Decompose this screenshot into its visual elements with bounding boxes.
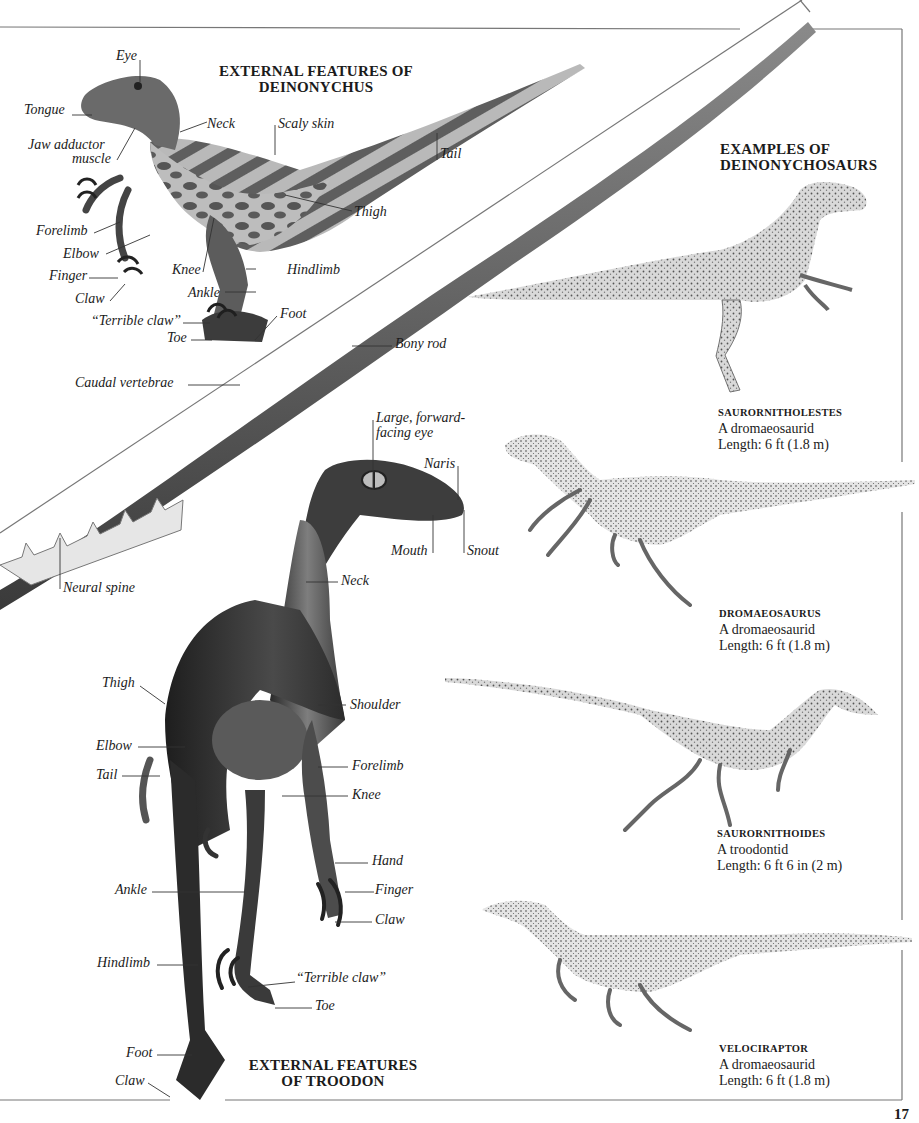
deinonychus-title: EXTERNAL FEATURES OF DEINONYCHUS [206,63,426,95]
deinonychus-title-line1: EXTERNAL FEATURES OF [219,63,413,79]
label-toe: Toe [167,330,187,345]
deinonychus-title-line2: DEINONYCHUS [259,79,374,95]
species-name: SAURORNITHOIDES [717,826,842,842]
species-family: A dromaeosaurid [718,421,814,436]
label-thigh-troodon: Thigh [102,675,135,690]
label-knee: Knee [172,262,201,277]
label-jaw-adductor-2: muscle [72,151,111,166]
label-tail: Tail [440,146,461,161]
page-number: 17 [894,1106,909,1123]
label-bony-rod: Bony rod [395,336,446,351]
species-family: A dromaeosaurid [719,1057,815,1072]
label-ankle-troodon: Ankle [115,882,147,897]
label-forelimb-troodon: Forelimb [352,758,404,773]
label-naris: Naris [424,456,455,471]
label-neck: Neck [207,116,235,131]
label-neck-troodon: Neck [341,573,369,588]
species-name: VELOCIRAPTOR [719,1041,830,1057]
saurornithoides-illustration [445,678,878,830]
label-knee-troodon: Knee [352,787,381,802]
label-shoulder: Shoulder [350,697,401,712]
label-neural-spine: Neural spine [63,580,135,595]
label-finger: Finger [49,268,87,283]
label-tongue: Tongue [24,102,65,117]
label-ankle: Ankle [188,285,220,300]
label-eye-1: Large, forward- [376,410,465,425]
label-scaly-skin: Scaly skin [278,116,334,131]
saurornitholestes-illustration [468,182,866,392]
label-caudal-vertebrae: Caudal vertebrae [75,375,173,390]
label-snout: Snout [467,543,499,558]
label-eye-2: facing eye [376,425,433,440]
label-elbow: Elbow [63,246,99,261]
label-finger-troodon: Finger [375,882,413,897]
velociraptor-illustration [482,901,912,1030]
caption-saurornitholestes: SAURORNITHOLESTES A dromaeosaurid Length… [718,405,842,453]
caption-saurornithoides: SAURORNITHOIDES A troodontid Length: 6 f… [717,826,842,874]
label-terrible-claw: “Terrible claw” [91,313,181,328]
label-claw: Claw [75,291,105,306]
species-family: A troodontid [717,842,788,857]
species-length: Length: 6 ft (1.8 m) [719,638,830,653]
species-length: Length: 6 ft (1.8 m) [719,1073,830,1088]
label-hindlimb-troodon: Hindlimb [97,955,150,970]
label-jaw-adductor-1: Jaw adductor [28,137,105,152]
deinonychus-illustration [78,64,585,342]
label-mouth: Mouth [391,543,428,558]
label-elbow-troodon: Elbow [96,738,132,753]
species-length: Length: 6 ft (1.8 m) [718,437,829,452]
caption-velociraptor: VELOCIRAPTOR A dromaeosaurid Length: 6 f… [719,1041,830,1089]
label-claw-troodon: Claw [375,912,405,927]
label-tail-troodon: Tail [96,767,117,782]
label-foot: Foot [280,306,306,321]
label-terrible-claw-troodon: “Terrible claw” [296,970,386,985]
label-toe-troodon: Toe [315,998,335,1013]
species-family: A dromaeosaurid [719,622,815,637]
label-forelimb: Forelimb [36,223,88,238]
label-claw2-troodon: Claw [115,1073,145,1088]
label-thigh: Thigh [354,204,387,219]
troodon-title-line2: OF TROODON [281,1073,384,1089]
dromaeosaurus-illustration [505,435,915,605]
label-hindlimb: Hindlimb [287,262,340,277]
species-length: Length: 6 ft 6 in (2 m) [717,858,842,873]
species-name: SAURORNITHOLESTES [718,405,842,421]
examples-title-line1: EXAMPLES OF [720,141,830,157]
troodon-title-line1: EXTERNAL FEATURES [249,1057,418,1073]
label-hand: Hand [372,853,403,868]
caption-dromaeosaurus: DROMAEOSAURUS A dromaeosaurid Length: 6 … [719,606,830,654]
label-foot-troodon: Foot [126,1045,152,1060]
label-eye: Eye [116,48,137,63]
troodon-title: EXTERNAL FEATURES OF TROODON [238,1057,428,1089]
examples-title-line2: DEINONYCHOSAURS [720,157,877,173]
species-name: DROMAEOSAURUS [719,606,830,622]
examples-title: EXAMPLES OF DEINONYCHOSAURS [720,141,877,173]
